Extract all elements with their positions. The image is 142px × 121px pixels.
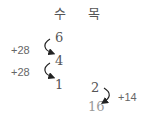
curved-arrow-icon [45, 39, 52, 53]
curved-arrow-icon [45, 63, 52, 77]
curved-arrow-icon [104, 88, 109, 102]
arrows [0, 0, 142, 121]
